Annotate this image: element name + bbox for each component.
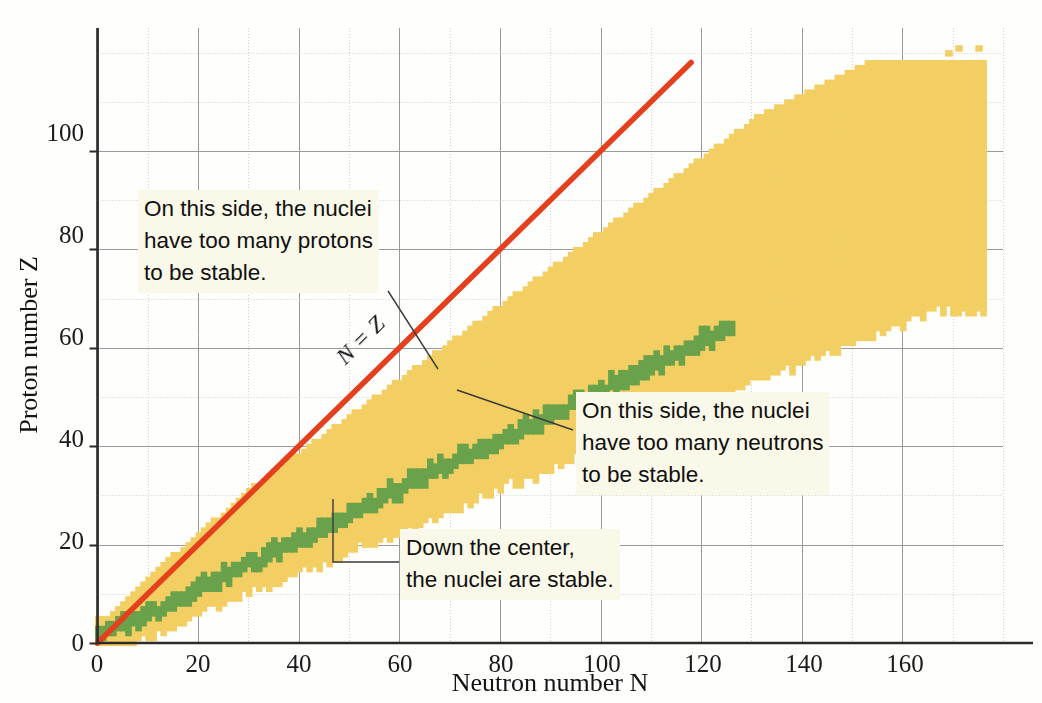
y-tick-100: 100 bbox=[24, 119, 84, 147]
callout-neutrons-line-3: to be stable. bbox=[582, 459, 823, 491]
x-axis-title: Neutron number N bbox=[452, 668, 648, 698]
callout-down-the-center: Down the center, the nuclei are stable. bbox=[400, 529, 620, 600]
callout-protons-line-1: On this side, the nuclei bbox=[144, 193, 373, 225]
callout-protons-line-2: have too many protons bbox=[144, 225, 373, 257]
callout-neutrons-line-2: have too many neutrons bbox=[582, 427, 823, 459]
x-tick-40: 40 bbox=[287, 650, 312, 678]
x-tick-0: 0 bbox=[91, 650, 104, 678]
y-tick-40: 40 bbox=[38, 425, 84, 453]
callout-too-many-neutrons: On this side, the nuclei have too many n… bbox=[576, 392, 829, 495]
x-tick-20: 20 bbox=[186, 650, 211, 678]
callout-stable-line-2: the nuclei are stable. bbox=[406, 564, 614, 596]
x-tick-160: 160 bbox=[886, 650, 924, 678]
callout-neutrons-line-1: On this side, the nuclei bbox=[582, 395, 823, 427]
x-tick-120: 120 bbox=[684, 650, 722, 678]
callout-too-many-protons: On this side, the nuclei have too many p… bbox=[138, 190, 379, 293]
y-tick-60: 60 bbox=[38, 323, 84, 351]
y-tick-20: 20 bbox=[38, 527, 84, 555]
callout-protons-line-3: to be stable. bbox=[144, 257, 373, 289]
callout-stable-line-1: Down the center, bbox=[406, 532, 614, 564]
y-tick-80: 80 bbox=[38, 221, 84, 249]
nuclide-stability-chart: 0 20 40 60 80 100 120 140 160 0 20 40 60… bbox=[0, 0, 1042, 703]
x-tick-60: 60 bbox=[388, 650, 413, 678]
y-axis-title: Proton number Z bbox=[14, 256, 44, 434]
x-tick-140: 140 bbox=[785, 650, 823, 678]
y-tick-0: 0 bbox=[38, 629, 84, 657]
